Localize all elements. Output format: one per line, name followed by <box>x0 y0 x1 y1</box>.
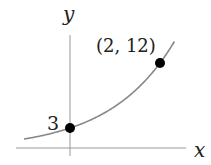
y-axis-label: y <box>62 2 75 26</box>
exponential-graph: y x 3 (2, 12) <box>0 0 211 165</box>
x-axis-label: x <box>194 138 205 162</box>
y-intercept-label: 3 <box>47 112 59 134</box>
point-2-12 <box>155 58 165 68</box>
y-intercept-point <box>65 123 75 133</box>
point-label: (2, 12) <box>96 35 156 56</box>
